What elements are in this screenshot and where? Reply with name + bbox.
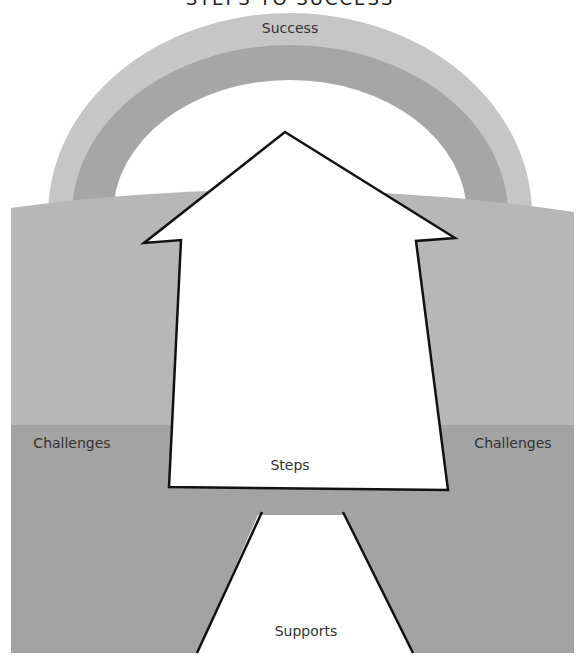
steps-diagram bbox=[0, 0, 581, 663]
supports-label: Supports bbox=[275, 623, 338, 639]
steps-label: Steps bbox=[270, 457, 309, 473]
success-label: Success bbox=[262, 20, 318, 36]
challenges-right-label: Challenges bbox=[474, 435, 551, 451]
challenges-left-label: Challenges bbox=[33, 435, 110, 451]
